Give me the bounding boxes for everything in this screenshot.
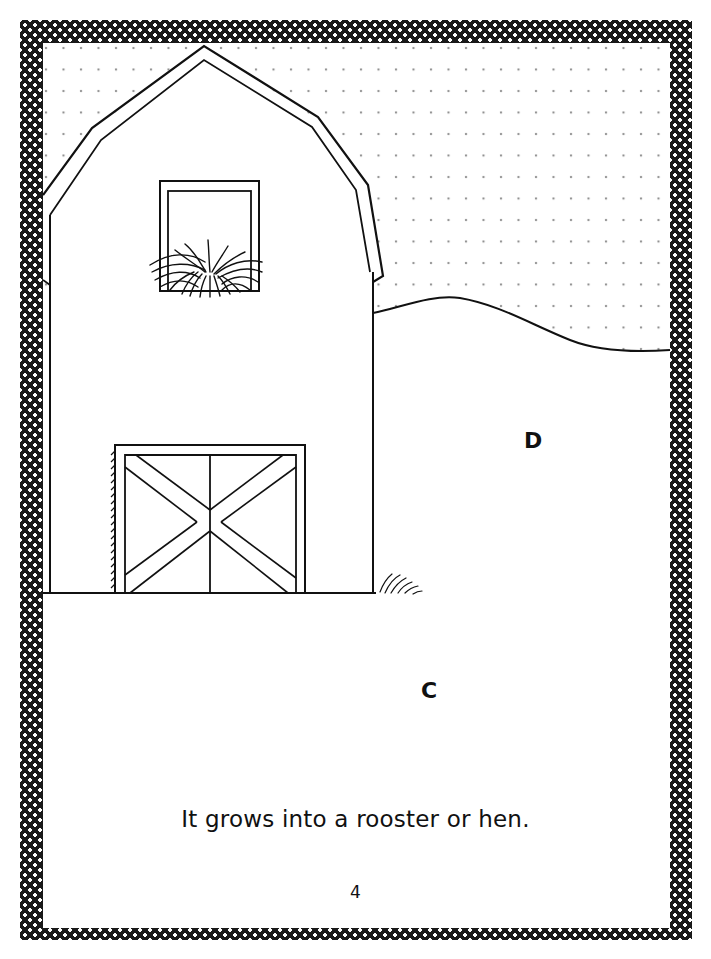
worksheet-page: D C It grows into a rooster or hen. 4 bbox=[0, 0, 711, 959]
label-d: D bbox=[524, 428, 542, 453]
page-number: 4 bbox=[0, 882, 711, 902]
story-sentence: It grows into a rooster or hen. bbox=[0, 806, 711, 832]
grass-tuft bbox=[380, 574, 422, 594]
label-c: C bbox=[421, 678, 437, 703]
